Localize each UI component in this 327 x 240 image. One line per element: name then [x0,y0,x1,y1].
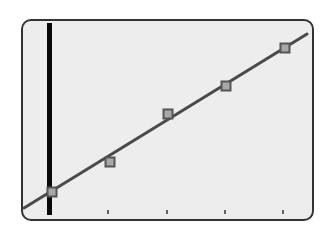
data-point-5 [281,44,290,53]
chart [0,0,327,240]
vertical-marker-bar [47,23,52,215]
data-point-4 [222,82,231,91]
data-point-1 [48,188,57,197]
data-point-3 [164,110,173,119]
data-point-2 [106,158,115,167]
